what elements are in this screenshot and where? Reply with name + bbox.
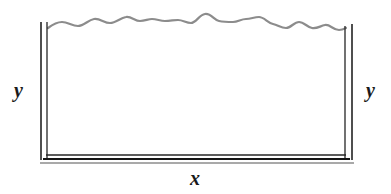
river-wavy-line	[48, 14, 346, 30]
fence-right-group	[345, 24, 352, 160]
label-y-left: y	[14, 80, 23, 100]
river-group	[48, 14, 346, 30]
fence-river-diagram	[0, 0, 391, 194]
label-y-right: y	[366, 80, 375, 100]
figure-container: y y x	[0, 0, 391, 194]
fence-left-group	[41, 22, 47, 160]
label-x-bottom: x	[190, 168, 200, 188]
fence-bottom-group	[40, 155, 354, 163]
